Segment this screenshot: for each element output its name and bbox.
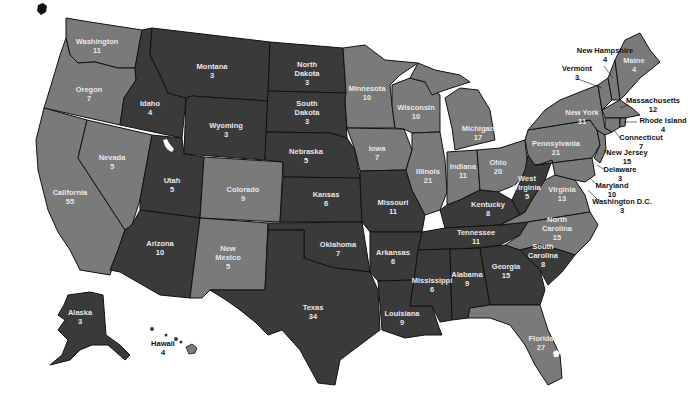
map-blot <box>37 3 47 15</box>
state-alaska[interactable] <box>50 292 130 365</box>
state-rhode-island[interactable] <box>620 118 626 127</box>
state-florida[interactable] <box>468 305 562 385</box>
state-michigan[interactable] <box>445 88 495 150</box>
state-hawaii[interactable] <box>186 344 197 354</box>
state-washington[interactable] <box>66 18 142 68</box>
state-south-dakota[interactable] <box>266 91 347 138</box>
state-kansas[interactable] <box>280 177 362 222</box>
hawaii-island <box>150 327 154 331</box>
us-map <box>0 0 690 394</box>
hawaii-island <box>174 337 178 341</box>
state-arkansas[interactable] <box>370 232 422 281</box>
state-colorado[interactable] <box>200 157 283 222</box>
state-north-dakota[interactable] <box>268 42 346 93</box>
state-maine[interactable] <box>615 33 660 100</box>
state-montana[interactable] <box>150 28 270 101</box>
state-wyoming[interactable] <box>184 96 268 160</box>
state-new-mexico[interactable] <box>190 218 268 298</box>
hawaii-island <box>165 334 168 337</box>
hawaii-island <box>180 341 183 344</box>
